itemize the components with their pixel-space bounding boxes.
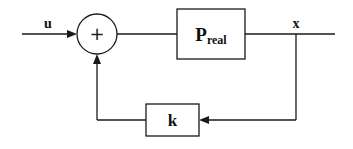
feedback-path-return [93,54,146,120]
gain-input-arrowhead-icon [199,116,209,124]
block-diagram: u + Preal x k [0,0,353,149]
input-signal: u [22,16,77,38]
plant-block: Preal [177,9,245,59]
feedback-gain-label: k [168,111,178,130]
summing-junction-sign: + [89,23,104,44]
output-signal: x [245,16,335,34]
input-arrowhead-icon [67,30,77,38]
plant-label-main: P [195,24,207,45]
plant-label-subscript: real [207,33,227,47]
feedback-gain-block: k [146,104,199,136]
output-label: x [293,16,300,31]
junction-feedback-arrowhead-icon [93,54,101,64]
summing-junction: + [77,14,117,54]
input-label: u [44,16,52,31]
